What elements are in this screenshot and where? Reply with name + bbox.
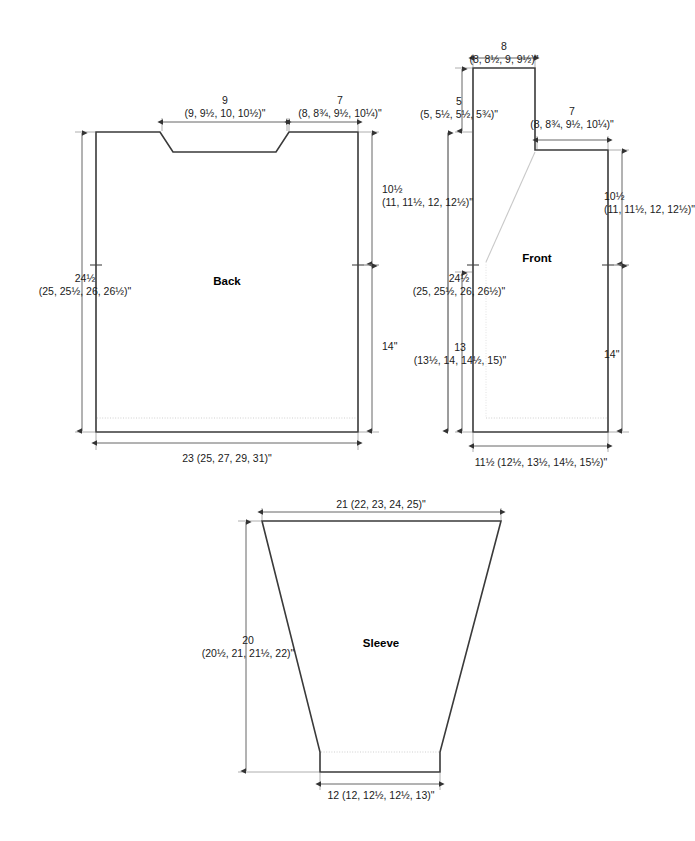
back-bottom-width-label: 23 (25, 27, 29, 31)" [182, 452, 272, 465]
front-side-length-range: (13½, 14, 14½, 15)" [414, 354, 506, 367]
front-side-length-label: 13 (13½, 14, 14½, 15)" [414, 341, 506, 367]
back-total-length-range: (25, 25½, 26, 26½)" [39, 285, 131, 298]
back-armhole-depth-range: (11, 11½, 12, 12½)" [382, 196, 473, 209]
back-total-length-label: 24½ (25, 25½, 26, 26½)" [39, 272, 131, 298]
back-armhole-depth-primary: 10½ [382, 183, 473, 196]
back-shoulder-width-label: 7 (8, 8¾, 9½, 10¼)" [298, 94, 382, 120]
back-bottom-width-dimension [96, 433, 358, 450]
back-neck-width-label: 9 (9, 9½, 10, 10½)" [185, 94, 266, 120]
back-neck-width-primary: 9 [185, 94, 266, 107]
front-armhole-depth-primary: 10½ [604, 190, 695, 203]
front-top-width-label: 8 (8, 8½, 9, 9½)" [469, 40, 538, 66]
front-shoulder-width-label: 7 (8, 8¾, 9½, 10¼)" [530, 105, 614, 131]
front-total-length-primary: 24½ [413, 272, 505, 285]
front-top-height-primary: 5 [420, 95, 498, 108]
back-body-length-label: 14" [382, 340, 397, 353]
front-bottom-width-label: 11½ (12½, 13½, 14½, 15½)" [475, 456, 608, 469]
sleeve-length-range: (20½, 21, 21½, 22)" [202, 647, 294, 660]
front-armhole-depth-label: 10½ (11, 11½, 12, 12½)" [604, 190, 695, 216]
sleeve-cuff-width-label: 12 (12, 12½, 12½, 13)" [327, 789, 434, 802]
front-total-length-range: (25, 25½, 26, 26½)" [413, 285, 505, 298]
front-top-height-range: (5, 5½, 5½, 5¾)" [420, 108, 498, 121]
back-body-length-dimension [359, 265, 379, 432]
back-armhole-depth-label: 10½ (11, 11½, 12, 12½)" [382, 183, 473, 209]
front-piece-label: Front [522, 252, 551, 264]
back-shoulder-width-range: (8, 8¾, 9½, 10¼)" [298, 107, 382, 120]
sleeve-piece-label: Sleeve [363, 637, 399, 649]
back-piece-label: Back [213, 275, 241, 287]
front-body-length-label: 14" [604, 348, 619, 361]
front-bottom-width-dimension [473, 433, 608, 452]
back-neck-width-range: (9, 9½, 10, 10½)" [185, 107, 266, 120]
front-side-length-primary: 13 [414, 341, 506, 354]
front-total-length-label: 24½ (25, 25½, 26, 26½)" [413, 272, 505, 298]
back-shoulder-width-primary: 7 [298, 94, 382, 107]
back-armhole-depth-dimension [359, 132, 379, 265]
sleeve-cuff-width-dimension [320, 773, 440, 790]
front-top-width-range: (8, 8½, 9, 9½)" [469, 53, 538, 66]
front-top-width-primary: 8 [469, 40, 538, 53]
front-shoulder-width-range: (8, 8¾, 9½, 10¼)" [530, 118, 614, 131]
front-armhole-depth-range: (11, 11½, 12, 12½)" [604, 203, 695, 216]
back-total-length-primary: 24½ [39, 272, 131, 285]
schematic-sheet: Back 9 (9, 9½, 10, 10½)" 7 (8, 8¾, 9½, 1… [0, 0, 695, 841]
front-shoulder-width-primary: 7 [530, 105, 614, 118]
sleeve-length-label: 20 (20½, 21, 21½, 22)" [202, 634, 294, 660]
front-shoulder-width-dimension [537, 136, 608, 149]
sleeve-length-primary: 20 [202, 634, 294, 647]
front-top-height-label: 5 (5, 5½, 5½, 5¾)" [420, 95, 498, 121]
sleeve-top-width-label: 21 (22, 23, 24, 25)" [336, 498, 426, 511]
